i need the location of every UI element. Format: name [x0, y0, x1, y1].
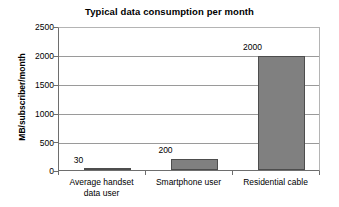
x-tick-mark-0 — [58, 171, 59, 175]
chart-title: Typical data consumption per month — [0, 6, 339, 17]
x-category-label-line-2: data user — [58, 188, 145, 199]
y-tick-label-1000: 1000 — [14, 110, 54, 119]
x-category-label-line-1: Average handset — [58, 177, 145, 188]
x-tick-mark-2 — [232, 171, 233, 175]
x-category-label-residential-cable: Residential cable — [232, 177, 319, 188]
plot-area — [58, 27, 320, 171]
x-category-label-line-1: Smartphone user — [145, 177, 232, 188]
x-tick-mark-1 — [145, 171, 146, 175]
bar-average-handset-data-user — [84, 168, 131, 170]
bar-smartphone-user — [171, 159, 218, 170]
x-category-label-smartphone-user: Smartphone user — [145, 177, 232, 188]
bar-value-label-3: 2000 — [234, 42, 271, 52]
y-tick-label-1500: 1500 — [14, 81, 54, 90]
chart-container: Typical data consumption per month MB/su… — [0, 0, 339, 207]
bar-value-label-1: 30 — [60, 155, 97, 165]
bar-value-label-2: 200 — [147, 145, 184, 155]
y-tick-label-2500: 2500 — [14, 23, 54, 32]
bar-residential-cable — [258, 56, 305, 170]
y-tick-label-500: 500 — [14, 139, 54, 148]
x-tick-mark-3 — [319, 171, 320, 175]
x-category-label-line-1: Residential cable — [232, 177, 319, 188]
y-tick-label-2000: 2000 — [14, 52, 54, 61]
y-tick-label-0: 0 — [14, 167, 54, 176]
x-category-label-average-handset-data-user: Average handset data user — [58, 177, 145, 199]
